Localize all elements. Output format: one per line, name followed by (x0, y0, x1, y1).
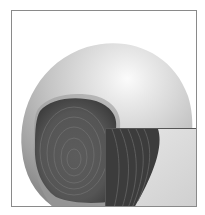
inset-detail (106, 129, 197, 207)
magnified-inset (105, 128, 197, 207)
image-frame (11, 10, 197, 207)
